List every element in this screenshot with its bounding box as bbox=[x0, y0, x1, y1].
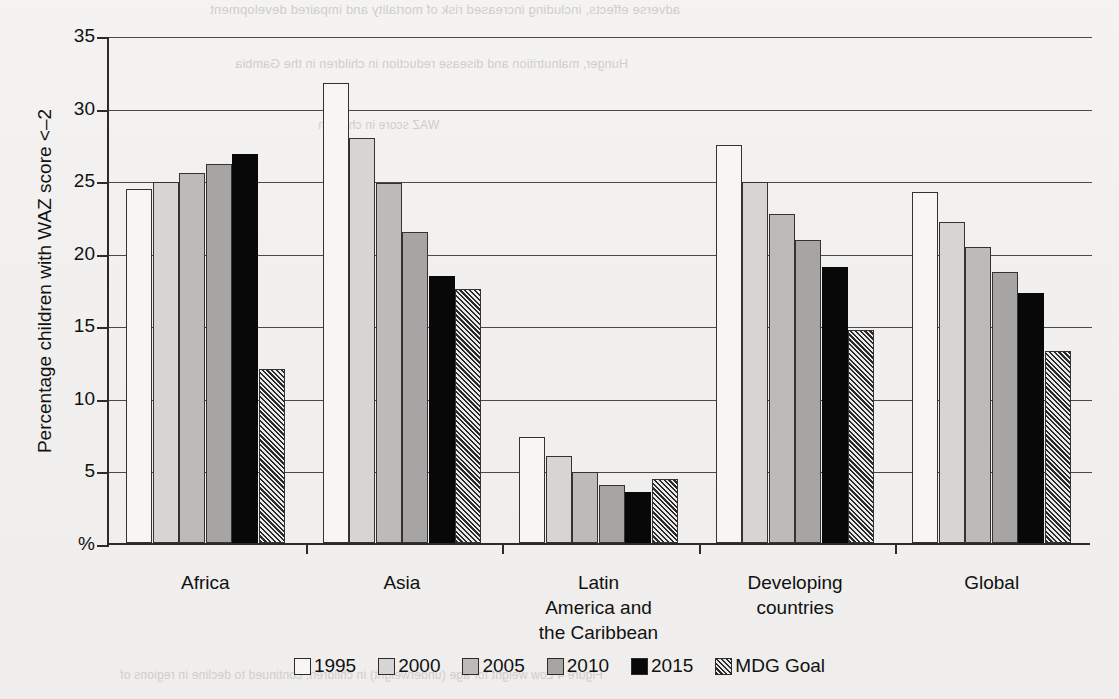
legend-item[interactable]: 2015 bbox=[631, 655, 693, 677]
y-axis-tick bbox=[97, 110, 109, 112]
y-axis-tick-label: 15 bbox=[43, 315, 95, 337]
bar[interactable] bbox=[126, 189, 152, 543]
x-axis-tick bbox=[502, 543, 504, 554]
y-axis-tick-label: 35 bbox=[43, 25, 95, 47]
x-axis-label-line: Developing bbox=[697, 570, 894, 595]
legend-item[interactable]: MDG Goal bbox=[715, 655, 825, 677]
legend-label: 2015 bbox=[651, 655, 693, 677]
y-axis-tick bbox=[97, 37, 109, 39]
bar[interactable] bbox=[965, 247, 991, 543]
bar[interactable] bbox=[822, 267, 848, 543]
legend-label: 2010 bbox=[567, 655, 609, 677]
legend-item[interactable]: 2000 bbox=[378, 655, 440, 677]
legend-item[interactable]: 1995 bbox=[294, 655, 356, 677]
legend-swatch-icon bbox=[547, 658, 564, 675]
bar[interactable] bbox=[323, 83, 349, 543]
bar-group bbox=[699, 37, 896, 543]
bar[interactable] bbox=[652, 479, 678, 543]
x-axis-category-label: Developingcountries bbox=[697, 570, 894, 620]
bar-group bbox=[895, 37, 1092, 543]
legend-label: 1995 bbox=[314, 655, 356, 677]
y-axis-tick bbox=[97, 327, 109, 329]
bar[interactable] bbox=[376, 183, 402, 543]
y-axis-tick bbox=[97, 255, 109, 257]
bar[interactable] bbox=[179, 173, 205, 543]
y-axis-tick-label: 5 bbox=[43, 460, 95, 482]
bar-chart: Percentage children with WAZ score <–2 %… bbox=[0, 0, 1119, 699]
legend-swatch-icon bbox=[378, 658, 395, 675]
bar[interactable] bbox=[742, 182, 768, 543]
bar[interactable] bbox=[232, 154, 258, 543]
bar[interactable] bbox=[572, 472, 598, 543]
bar-group bbox=[502, 37, 699, 543]
y-axis-tick bbox=[97, 545, 109, 547]
legend-item[interactable]: 2005 bbox=[462, 655, 524, 677]
bar[interactable] bbox=[625, 492, 651, 543]
legend-label: 2005 bbox=[482, 655, 524, 677]
x-axis-tick bbox=[895, 543, 897, 554]
y-axis-tick-label: 30 bbox=[43, 98, 95, 120]
bar-group bbox=[109, 37, 306, 543]
x-axis-category-label: Africa bbox=[107, 570, 304, 595]
x-axis-category-label: Asia bbox=[304, 570, 501, 595]
y-axis-tick-label: 10 bbox=[43, 388, 95, 410]
y-axis-tick bbox=[97, 472, 109, 474]
bar[interactable] bbox=[349, 138, 375, 543]
y-axis-tick-label: 20 bbox=[43, 243, 95, 265]
x-axis-label-line: Asia bbox=[304, 570, 501, 595]
x-axis-tick bbox=[306, 543, 308, 554]
legend-swatch-icon bbox=[462, 658, 479, 675]
x-axis-label-line: America and bbox=[500, 595, 697, 620]
bar[interactable] bbox=[769, 214, 795, 543]
x-axis-label-line: Latin bbox=[500, 570, 697, 595]
bar[interactable] bbox=[992, 272, 1018, 543]
bar[interactable] bbox=[716, 145, 742, 543]
bar[interactable] bbox=[206, 164, 232, 543]
x-axis-tick bbox=[699, 543, 701, 554]
bar[interactable] bbox=[546, 456, 572, 543]
bar[interactable] bbox=[1045, 351, 1071, 543]
x-axis-label-line: Global bbox=[893, 570, 1090, 595]
bar[interactable] bbox=[455, 289, 481, 543]
bar[interactable] bbox=[912, 192, 938, 543]
bar[interactable] bbox=[939, 222, 965, 543]
x-axis-label-line: countries bbox=[697, 595, 894, 620]
y-axis-tick-label: % bbox=[43, 533, 95, 555]
bar[interactable] bbox=[599, 485, 625, 543]
legend-swatch-icon bbox=[715, 658, 732, 675]
y-axis-tick bbox=[97, 182, 109, 184]
legend-swatch-icon bbox=[631, 658, 648, 675]
legend-swatch-icon bbox=[294, 658, 311, 675]
y-axis-tick-label: 25 bbox=[43, 170, 95, 192]
bar[interactable] bbox=[259, 369, 285, 543]
legend-label: 2000 bbox=[398, 655, 440, 677]
plot-area: %5101520253035 bbox=[107, 37, 1090, 545]
bar[interactable] bbox=[429, 276, 455, 543]
bar[interactable] bbox=[519, 437, 545, 543]
bar[interactable] bbox=[795, 240, 821, 543]
legend-item[interactable]: 2010 bbox=[547, 655, 609, 677]
chart-legend: 19952000200520102015MDG Goal bbox=[0, 655, 1119, 677]
y-axis-tick bbox=[97, 400, 109, 402]
x-axis-category-label: Global bbox=[893, 570, 1090, 595]
legend-label: MDG Goal bbox=[735, 655, 825, 677]
bar[interactable] bbox=[402, 232, 428, 543]
bar[interactable] bbox=[153, 182, 179, 543]
x-axis-label-line: Africa bbox=[107, 570, 304, 595]
bar[interactable] bbox=[1018, 293, 1044, 543]
x-axis-category-label: LatinAmerica andthe Caribbean bbox=[500, 570, 697, 645]
x-axis-label-line: the Caribbean bbox=[500, 620, 697, 645]
bar[interactable] bbox=[848, 330, 874, 543]
bar-group bbox=[306, 37, 503, 543]
